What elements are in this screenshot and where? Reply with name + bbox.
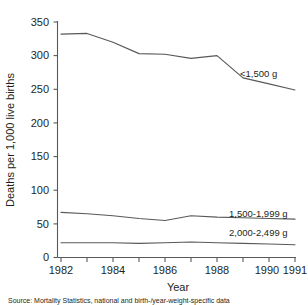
series-label-mid-birthweight: 1,500-1,999 g <box>229 208 288 219</box>
y-tick-label-100: 100 <box>31 184 49 196</box>
y-tick-label-0: 0 <box>43 251 49 263</box>
series-label-low-birthweight: <1,500 g <box>240 68 277 79</box>
y-tick-label-250: 250 <box>31 83 49 95</box>
y-tick-label-350: 350 <box>31 16 49 28</box>
x-tick-label-1990: 1990 <box>255 264 279 276</box>
series-label-high-birthweight: 2,000-2,499 g <box>229 227 288 238</box>
x-tick-label-1984: 1984 <box>101 264 125 276</box>
x-tick-label-1986: 1986 <box>153 264 177 276</box>
y-tick-label-300: 300 <box>31 49 49 61</box>
y-tick-label-50: 50 <box>37 218 49 230</box>
y-tick-label-150: 150 <box>31 150 49 162</box>
x-tick-label-1988: 1988 <box>205 264 229 276</box>
infant-mortality-by-birthweight-chart: 0 50 100 150 200 250 300 350 Deaths per … <box>0 0 308 305</box>
x-tick-label-1991: 1991 <box>283 264 307 276</box>
y-axis-title: Deaths per 1,000 live births <box>4 73 16 207</box>
x-tick-label-1982: 1982 <box>49 264 73 276</box>
y-tick-label-200: 200 <box>31 117 49 129</box>
x-axis-title: Year <box>167 281 190 293</box>
source-note: Source: Mortality Statistics, national a… <box>8 297 230 305</box>
